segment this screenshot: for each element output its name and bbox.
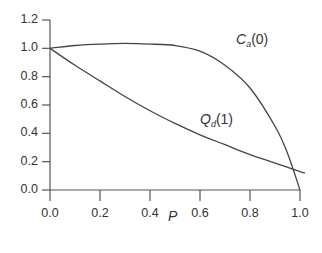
series-label-ca0: Ca(0) [236, 31, 268, 49]
ca-symbol: C [236, 31, 246, 47]
x-tick-label: 0.2 [85, 207, 115, 220]
y-ticks [42, 20, 50, 190]
x-axis-title: P [168, 208, 177, 224]
series-qd1-line [50, 48, 305, 173]
y-tick-label: 1.0 [14, 41, 38, 54]
y-tick-label: 0.0 [14, 183, 38, 196]
x-tick-label: 0.8 [235, 207, 265, 220]
x-tick-label: 0.6 [185, 207, 215, 220]
series-label-qd1: Qd(1) [200, 111, 233, 129]
y-tick-label: 0.4 [14, 126, 38, 139]
y-tick-label: 1.2 [14, 13, 38, 26]
series-ca0-line [50, 43, 300, 190]
x-ticks [50, 190, 300, 201]
y-tick-label: 0.2 [14, 155, 38, 168]
x-tick-label: 0.0 [35, 207, 65, 220]
ca-argument: (0) [251, 31, 268, 47]
x-tick-label: 0.4 [135, 207, 165, 220]
y-tick-label: 0.6 [14, 98, 38, 111]
qd-symbol: Q [200, 111, 211, 127]
qd-argument: (1) [216, 111, 233, 127]
y-tick-label: 0.8 [14, 70, 38, 83]
x-tick-label: 1.0 [285, 207, 315, 220]
